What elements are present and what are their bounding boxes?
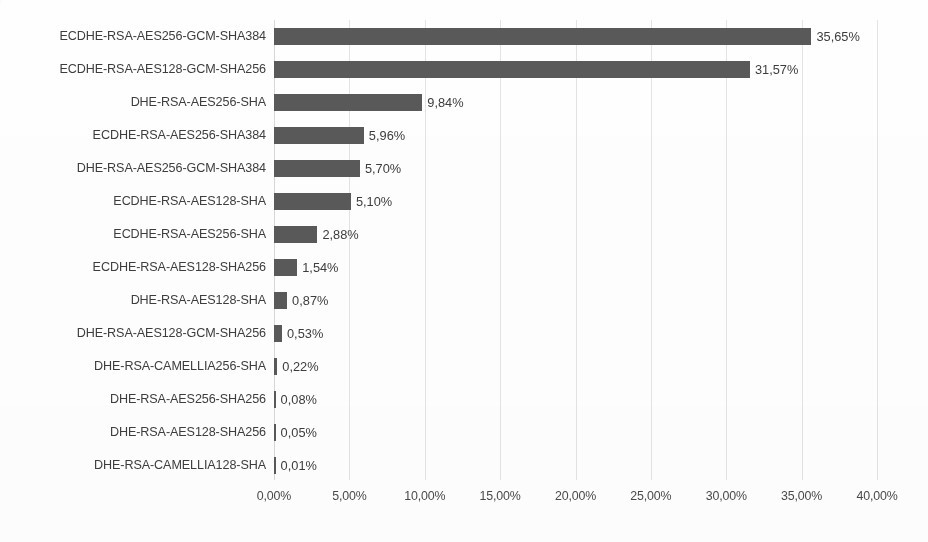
bar-track: 35,65%	[274, 20, 928, 53]
bar	[274, 28, 811, 45]
x-tick-label: 35,00%	[781, 489, 822, 503]
bar-value-label: 5,96%	[364, 119, 405, 152]
bar-track: 0,22%	[274, 350, 928, 383]
bar	[274, 127, 364, 144]
category-label: DHE-RSA-CAMELLIA128-SHA	[0, 449, 266, 482]
category-label: DHE-RSA-AES128-SHA	[0, 284, 266, 317]
chart-row: DHE-RSA-AES128-GCM-SHA2560,53%	[0, 317, 928, 350]
bar-track: 9,84%	[274, 86, 928, 119]
bar-value-label: 1,54%	[297, 251, 338, 284]
category-label: DHE-RSA-CAMELLIA256-SHA	[0, 350, 266, 383]
category-label: ECDHE-RSA-AES128-SHA256	[0, 251, 266, 284]
category-label: ECDHE-RSA-AES128-GCM-SHA256	[0, 53, 266, 86]
chart-row: DHE-RSA-AES128-SHA2560,05%	[0, 416, 928, 449]
x-tick-label: 15,00%	[480, 489, 521, 503]
chart-row: DHE-RSA-AES256-GCM-SHA3845,70%	[0, 152, 928, 185]
category-label: ECDHE-RSA-AES256-SHA384	[0, 119, 266, 152]
chart-row: DHE-RSA-CAMELLIA128-SHA0,01%	[0, 449, 928, 482]
x-tick-label: 0,00%	[257, 489, 291, 503]
category-label: ECDHE-RSA-AES256-GCM-SHA384	[0, 20, 266, 53]
chart-row: DHE-RSA-AES256-SHA2560,08%	[0, 383, 928, 416]
bar-value-label: 0,53%	[282, 317, 323, 350]
x-tick-label: 10,00%	[404, 489, 445, 503]
bar-track: 0,53%	[274, 317, 928, 350]
bar	[274, 292, 287, 309]
chart-row: ECDHE-RSA-AES256-GCM-SHA38435,65%	[0, 20, 928, 53]
bar-track: 0,05%	[274, 416, 928, 449]
bar-value-label: 35,65%	[811, 20, 859, 53]
bar-chart: ECDHE-RSA-AES256-GCM-SHA38435,65%ECDHE-R…	[0, 0, 928, 542]
bar-track: 5,96%	[274, 119, 928, 152]
bar-track: 31,57%	[274, 53, 928, 86]
chart-row: DHE-RSA-AES128-SHA0,87%	[0, 284, 928, 317]
chart-row: ECDHE-RSA-AES128-GCM-SHA25631,57%	[0, 53, 928, 86]
bar	[274, 325, 282, 342]
x-tick-label: 25,00%	[630, 489, 671, 503]
bar-track: 1,54%	[274, 251, 928, 284]
category-label: DHE-RSA-AES256-SHA256	[0, 383, 266, 416]
bar-value-label: 5,10%	[351, 185, 392, 218]
bar-value-label: 2,88%	[317, 218, 358, 251]
bar-value-label: 0,22%	[277, 350, 318, 383]
bar-track: 5,70%	[274, 152, 928, 185]
category-label: DHE-RSA-AES256-GCM-SHA384	[0, 152, 266, 185]
bar	[274, 226, 317, 243]
bar-track: 0,08%	[274, 383, 928, 416]
bar-value-label: 0,87%	[287, 284, 328, 317]
category-label: DHE-RSA-AES128-SHA256	[0, 416, 266, 449]
chart-row: ECDHE-RSA-AES256-SHA2,88%	[0, 218, 928, 251]
category-label: ECDHE-RSA-AES256-SHA	[0, 218, 266, 251]
chart-row: ECDHE-RSA-AES128-SHA5,10%	[0, 185, 928, 218]
x-tick-label: 30,00%	[706, 489, 747, 503]
bar-value-label: 5,70%	[360, 152, 401, 185]
bar-track: 2,88%	[274, 218, 928, 251]
x-axis-tick-labels: 0,00%5,00%10,00%15,00%20,00%25,00%30,00%…	[274, 489, 877, 513]
bar-track: 0,01%	[274, 449, 928, 482]
bar-track: 0,87%	[274, 284, 928, 317]
bar-track: 5,10%	[274, 185, 928, 218]
bar	[274, 94, 422, 111]
chart-row: ECDHE-RSA-AES128-SHA2561,54%	[0, 251, 928, 284]
category-label: DHE-RSA-AES128-GCM-SHA256	[0, 317, 266, 350]
chart-row: ECDHE-RSA-AES256-SHA3845,96%	[0, 119, 928, 152]
category-label: DHE-RSA-AES256-SHA	[0, 86, 266, 119]
bar-value-label: 9,84%	[422, 86, 463, 119]
chart-row: DHE-RSA-CAMELLIA256-SHA0,22%	[0, 350, 928, 383]
x-tick-label: 40,00%	[856, 489, 897, 503]
x-tick-label: 5,00%	[332, 489, 366, 503]
bar	[274, 160, 360, 177]
chart-rows: ECDHE-RSA-AES256-GCM-SHA38435,65%ECDHE-R…	[0, 20, 928, 482]
bar	[274, 61, 750, 78]
bar-value-label: 0,05%	[276, 416, 317, 449]
bar	[274, 259, 297, 276]
chart-row: DHE-RSA-AES256-SHA9,84%	[0, 86, 928, 119]
bar-value-label: 0,08%	[276, 383, 317, 416]
x-tick-label: 20,00%	[555, 489, 596, 503]
category-label: ECDHE-RSA-AES128-SHA	[0, 185, 266, 218]
bar-value-label: 0,01%	[276, 449, 317, 482]
bar	[274, 193, 351, 210]
bar-value-label: 31,57%	[750, 53, 798, 86]
